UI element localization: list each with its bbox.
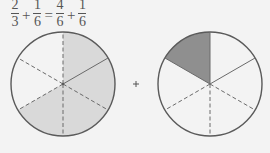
radius-dashed [165,84,210,110]
fraction-circles-diagram [0,0,270,153]
radius-dashed [210,84,255,110]
center-point [62,83,65,86]
radius-dashed [18,58,63,84]
left-circle-four-sixths [11,32,115,136]
right-circle-one-sixth [158,32,262,136]
plus-sign [133,81,139,87]
radius-solid [210,58,255,84]
shaded-region [165,32,210,84]
